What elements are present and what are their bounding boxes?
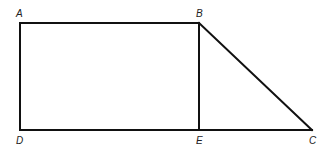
point-label-a: A bbox=[15, 8, 23, 19]
point-label-d: D bbox=[16, 135, 23, 146]
point-label-c: C bbox=[309, 135, 317, 146]
geometry-diagram: A B C D E bbox=[0, 0, 331, 152]
point-label-e: E bbox=[196, 135, 203, 146]
segment-bc bbox=[199, 23, 312, 130]
point-label-b: B bbox=[196, 8, 203, 19]
